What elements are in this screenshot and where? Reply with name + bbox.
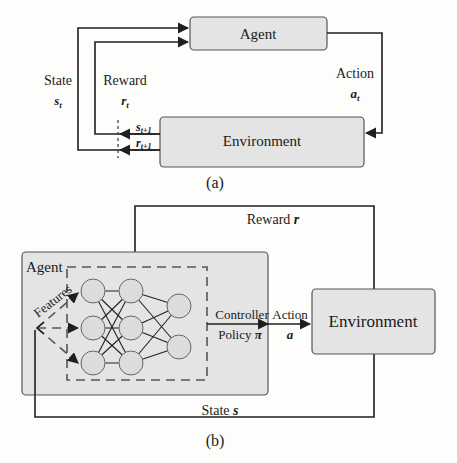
- action-symbol-b: a: [287, 327, 294, 342]
- output-node-1: [167, 294, 191, 318]
- reward-symbol-a: rt: [121, 93, 129, 110]
- environment-label-a: Environment: [223, 133, 302, 149]
- state-symbol-a: st: [53, 93, 62, 110]
- agent-label-a: Agent: [240, 26, 277, 42]
- input-node-3: [81, 351, 105, 375]
- hidden-node-1: [119, 279, 143, 303]
- next-state-symbol-a: st+1: [135, 120, 151, 135]
- environment-box-a: Environment: [160, 117, 364, 167]
- agent-label-b: Agent: [26, 259, 63, 275]
- figure-a: Agent Environment State st Reward rt Act…: [44, 17, 382, 192]
- state-label-b: State s: [202, 403, 240, 418]
- input-node-2: [81, 316, 105, 340]
- state-label-a: State: [44, 73, 72, 88]
- reward-label-b: Reward r: [247, 212, 300, 227]
- diagram-svg: Agent Environment State st Reward rt Act…: [0, 0, 457, 463]
- caption-b: (b): [206, 432, 225, 450]
- caption-a: (a): [206, 174, 224, 192]
- action-label-a: Action: [336, 66, 374, 81]
- input-node-1: [81, 279, 105, 303]
- policy-label: Policy π: [218, 327, 262, 342]
- hidden-node-2: [119, 316, 143, 340]
- next-reward-symbol-a: rt+1: [136, 136, 151, 151]
- reward-label-a: Reward: [103, 73, 147, 88]
- figure-canvas: Agent Environment State st Reward rt Act…: [0, 0, 457, 463]
- action-symbol-a: at: [350, 86, 360, 103]
- output-node-2: [167, 335, 191, 359]
- action-label-b: Action: [272, 307, 308, 322]
- controller-label: Controller: [215, 307, 269, 322]
- environment-label-b: Environment: [329, 312, 418, 331]
- agent-box-a: Agent: [190, 17, 327, 50]
- figure-b: Reward r State s Agent Features: [22, 206, 435, 450]
- hidden-node-3: [119, 351, 143, 375]
